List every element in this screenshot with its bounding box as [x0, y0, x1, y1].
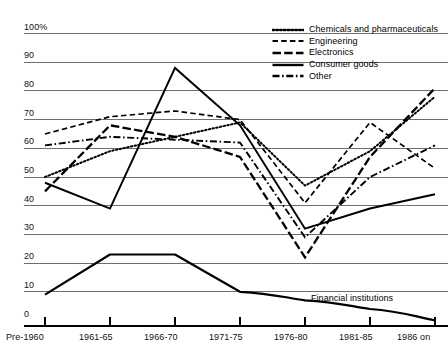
chart-legend: Chemicals and pharmaceuticalsEngineering… — [272, 24, 448, 82]
legend-label: Electronics — [309, 48, 354, 57]
legend-line-swatch-long-dash-icon — [272, 48, 304, 58]
y-axis-tick-label: 80 — [24, 80, 34, 89]
series-paths — [45, 68, 435, 257]
x-axis-tick-label: 1986 on — [397, 333, 430, 342]
y-axis-tick-label: 70 — [24, 109, 34, 118]
legend-item[interactable]: Chemicals and pharmaceuticals — [272, 24, 448, 36]
x-axis-tick-label: 1971-75 — [209, 333, 243, 342]
y-axis-tick-label: 0 — [24, 310, 29, 319]
legend-line-swatch-dashed-icon — [272, 36, 304, 46]
y-axis-tick-label: 20 — [24, 252, 34, 261]
x-axis-tick-label: 1966-70 — [144, 333, 178, 342]
legend-label: Other — [309, 72, 332, 81]
series-line — [45, 88, 435, 257]
financial-institutions-label: Financial institutions — [311, 294, 393, 303]
legend-item[interactable]: Consumer goods — [272, 59, 448, 71]
legend-item[interactable]: Engineering — [272, 36, 448, 48]
y-axis-tick-label: 10 — [24, 281, 34, 290]
legend-line-swatch-solid-icon — [272, 60, 304, 70]
y-axis-tick-label: 100% — [24, 23, 47, 32]
y-axis-tick-label: 60 — [24, 137, 34, 146]
x-axis-tick-label: 1961-65 — [79, 333, 113, 342]
x-axis-tick-label: Pre-1960 — [6, 333, 44, 342]
legend-label: Consumer goods — [309, 60, 378, 69]
x-axis-tick-label: 1981-85 — [339, 333, 373, 342]
x-axis-tick-label: 1976-80 — [274, 333, 308, 342]
legend-line-swatch-dash-dot-icon — [272, 71, 304, 81]
x-axis-ticks — [45, 317, 435, 327]
series-line — [45, 137, 435, 237]
legend-item[interactable]: Electronics — [272, 47, 448, 59]
y-axis-tick-label: 90 — [24, 51, 34, 60]
annotated-series-line — [45, 254, 435, 320]
series-line — [45, 97, 435, 186]
chart-container: 0102030405060708090100% Pre-19601961-651… — [0, 0, 448, 354]
legend-label: Chemicals and pharmaceuticals — [309, 25, 438, 34]
legend-label: Engineering — [309, 37, 358, 46]
annotated-series-paths — [45, 254, 435, 320]
y-axis-tick-label: 30 — [24, 223, 34, 232]
legend-line-swatch-dotted-icon — [272, 25, 304, 35]
y-axis-tick-label: 50 — [24, 166, 34, 175]
legend-item[interactable]: Other — [272, 70, 448, 82]
y-axis-tick-label: 40 — [24, 195, 34, 204]
